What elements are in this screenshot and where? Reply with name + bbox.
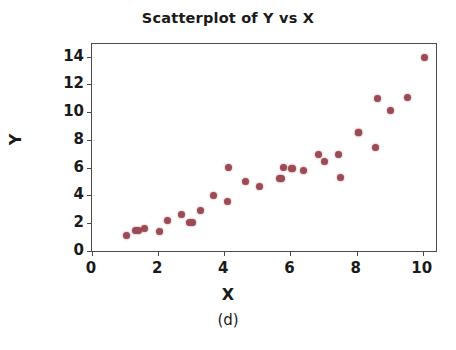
data-point [242,178,249,185]
data-point [374,95,381,102]
x-axis-tick [224,251,225,256]
data-point [421,54,428,61]
y-axis-title: Y [6,134,25,146]
panel-caption: (d) [0,311,456,329]
y-axis-tick-label: 8 [44,131,84,146]
data-point [321,158,328,165]
y-axis-tick [87,168,92,169]
y-axis-tick [87,84,92,85]
y-axis-tick-label: 12 [44,76,84,91]
x-axis-tick-label: 8 [336,261,376,276]
y-axis-tick-label: 10 [44,104,84,119]
data-point [315,151,322,158]
data-point [141,225,148,232]
y-axis-tick-label: 6 [44,159,84,174]
y-axis-tick-label: 4 [44,187,84,202]
data-point [278,175,285,182]
data-point [404,94,411,101]
y-axis-tick-labels: 02468101214 [40,43,84,252]
y-axis-tick-label: 0 [44,243,84,258]
x-axis-tick-labels: 0246810 [91,261,437,281]
data-point [210,192,217,199]
data-point [335,151,342,158]
x-axis-tick-label: 2 [137,261,177,276]
data-point [197,207,204,214]
x-axis-tick [158,251,159,256]
y-axis-tick-label: 14 [44,48,84,63]
x-axis-tick [92,251,93,256]
data-point [224,198,231,205]
data-point [387,107,394,114]
x-axis-title: X [0,285,456,304]
data-point [280,164,287,171]
y-axis-tick [87,57,92,58]
chart-title: Scatterplot of Y vs X [0,10,456,26]
data-point [156,228,163,235]
x-axis-tick-label: 0 [71,261,111,276]
data-point [256,183,263,190]
y-axis-tick [87,140,92,141]
x-axis-tick [357,251,358,256]
x-axis-tick [423,251,424,256]
data-point [300,167,307,174]
data-point [355,129,362,136]
data-point [372,144,379,151]
data-point [123,232,130,239]
data-points-layer [92,44,436,251]
data-point [225,164,232,171]
y-axis-tick-label: 2 [44,215,84,230]
y-axis-tick [87,112,92,113]
x-axis-tick-label: 4 [203,261,243,276]
x-axis-tick-label: 10 [402,261,442,276]
data-point [186,219,193,226]
plot-area [91,43,437,252]
data-point [164,217,171,224]
scatterplot-figure: Scatterplot of Y vs X Y 02468101214 0246… [0,0,456,350]
data-point [132,227,139,234]
x-axis-tick-label: 6 [269,261,309,276]
data-point [337,174,344,181]
data-point [288,165,295,172]
y-axis-tick [87,195,92,196]
x-axis-tick [290,251,291,256]
y-axis-tick [87,223,92,224]
data-point [178,211,185,218]
